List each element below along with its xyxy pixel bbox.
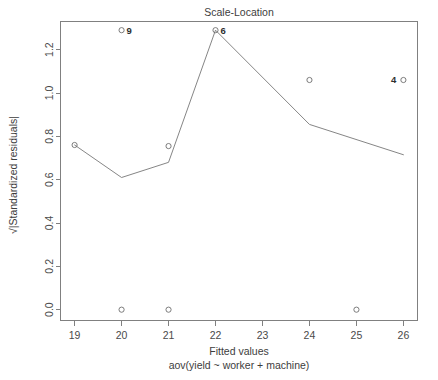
y-tick-label-group: 0.4 (43, 216, 55, 231)
y-axis-tick-labels: 0.00.20.40.60.81.01.2 (43, 42, 55, 317)
plot-panel-border (61, 22, 418, 321)
y-tick-label-group: 0.6 (43, 172, 55, 187)
data-point-marker[interactable] (354, 307, 359, 312)
y-axis-label-group: √|Standardized residuals| (7, 116, 19, 234)
data-point-marker[interactable] (119, 307, 124, 312)
chart-canvas: 0.00.20.40.60.81.01.2 1920212223242526 9… (0, 0, 438, 380)
smooth-curve (75, 30, 404, 177)
y-tick-label-group: 1.0 (43, 86, 55, 101)
y-tick-label: 0.8 (43, 129, 55, 144)
x-axis-label: Fitted values (209, 345, 269, 357)
y-tick-label-group: 0.0 (43, 302, 55, 317)
y-axis-ticks (56, 50, 61, 310)
y-tick-label-group: 1.2 (43, 42, 55, 57)
scale-location-plot: 0.00.20.40.60.81.01.2 1920212223242526 9… (0, 0, 438, 380)
y-tick-label: 0.6 (43, 172, 55, 187)
y-tick-label: 0.2 (43, 259, 55, 274)
x-axis-tick-labels: 1920212223242526 (69, 329, 410, 341)
data-point-marker[interactable] (401, 77, 406, 82)
lowess-smooth-line (75, 30, 404, 177)
x-tick-label: 21 (163, 329, 175, 341)
data-point-label: 4 (391, 74, 397, 85)
x-tick-label: 22 (210, 329, 222, 341)
data-point-marker[interactable] (307, 77, 312, 82)
x-tick-label: 23 (257, 329, 269, 341)
x-tick-label: 25 (351, 329, 363, 341)
x-tick-label: 24 (304, 329, 316, 341)
x-axis-sublabel: aov(yield ~ worker + machine) (169, 359, 310, 371)
data-point-marker[interactable] (166, 307, 171, 312)
x-tick-label: 20 (116, 329, 128, 341)
y-tick-label: 0.0 (43, 302, 55, 317)
data-point-label: 6 (221, 25, 226, 36)
x-tick-label: 26 (398, 329, 410, 341)
x-tick-label: 19 (69, 329, 81, 341)
y-tick-label-group: 0.2 (43, 259, 55, 274)
data-point-label: 9 (127, 25, 132, 36)
data-points (72, 28, 406, 313)
chart-title: Scale-Location (204, 6, 274, 18)
x-axis-ticks (75, 321, 404, 326)
data-point-marker[interactable] (166, 143, 171, 148)
y-axis-label: √|Standardized residuals| (7, 116, 19, 234)
y-tick-label: 1.0 (43, 86, 55, 101)
y-tick-label: 1.2 (43, 42, 55, 57)
data-point-marker[interactable] (119, 28, 124, 33)
y-tick-label-group: 0.8 (43, 129, 55, 144)
y-tick-label: 0.4 (43, 216, 55, 231)
